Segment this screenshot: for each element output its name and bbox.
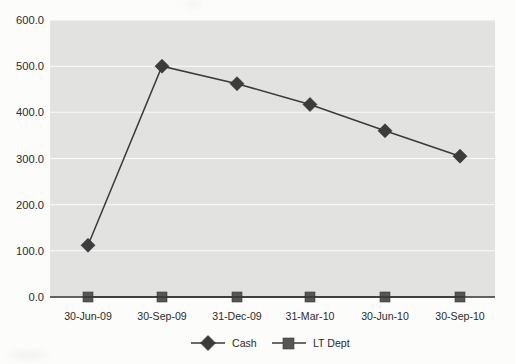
x-tick-label-3: 31-Mar-10 [286,310,335,322]
y-tick-label-500: 500.0 [16,60,44,72]
y-tick-label-200: 200.0 [16,199,44,211]
x-tick-label-2: 31-Dec-09 [212,310,262,322]
legend-item-lt-dept[interactable]: LT Dept [272,337,350,349]
y-axis-tick-labels: 600.0 500.0 400.0 300.0 200.0 100.0 0.0 [16,14,44,303]
legend-cash-diamond-icon [201,336,216,351]
x-tick-label-4: 30-Jun-10 [361,310,409,322]
chart-container: 600.0 500.0 400.0 300.0 200.0 100.0 0.0 [0,0,515,364]
y-tick-label-100: 100.0 [16,245,44,257]
y-tick-label-400: 400.0 [16,106,44,118]
legend-cash-label: Cash [232,337,257,349]
x-tick-label-5: 30-Sep-10 [435,310,485,322]
y-tick-label-300: 300.0 [16,153,44,165]
y-tick-label-0: 0.0 [28,291,44,303]
legend-item-cash[interactable]: Cash [191,336,257,351]
legend-lt-dept-label: LT Dept [313,337,350,349]
line-chart-plot: 600.0 500.0 400.0 300.0 200.0 100.0 0.0 [0,0,515,364]
x-tick-label-1: 30-Sep-09 [137,310,187,322]
x-axis-tick-labels: 30-Jun-09 30-Sep-09 31-Dec-09 31-Mar-10 … [64,310,485,322]
y-tick-label-600: 600.0 [16,14,44,26]
x-tick-label-0: 30-Jun-09 [64,310,112,322]
legend-lt-dept-square-icon [283,338,294,349]
chart-legend: Cash LT Dept [191,336,350,351]
